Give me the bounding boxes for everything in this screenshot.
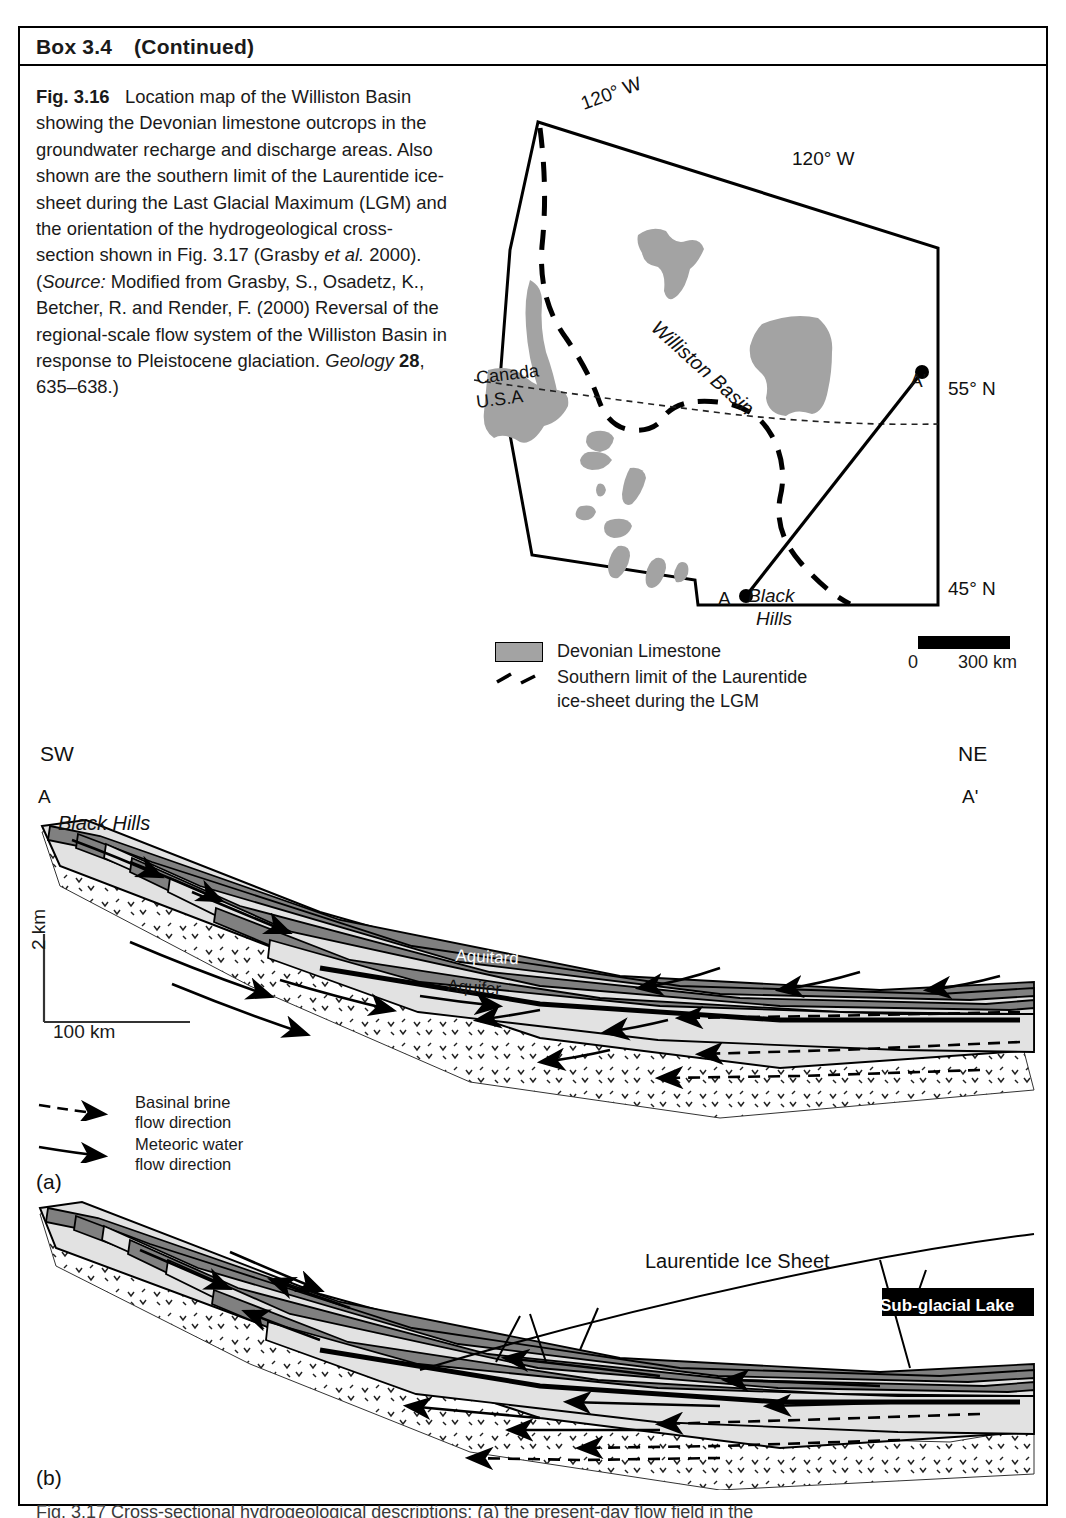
location-map: 120° W 120° W 55° N 45° N Williston Basi… bbox=[470, 80, 1050, 700]
scalebar-max-label: 300 km bbox=[958, 652, 1017, 673]
map-label-longitude-topright: 120° W bbox=[792, 148, 855, 170]
flow-legend-meteoric-line2: flow direction bbox=[135, 1155, 231, 1173]
label-direction-ne: NE bbox=[958, 742, 987, 766]
map-label-latitude-55n: 55° N bbox=[948, 378, 996, 400]
legend-item-limestone: Devonian Limestone bbox=[495, 640, 915, 666]
label-horizontal-scale: 100 km bbox=[53, 1021, 115, 1043]
label-laurentide-ice-sheet: Laurentide Ice Sheet bbox=[645, 1250, 830, 1273]
box-header: Box 3.4(Continued) bbox=[18, 26, 1048, 66]
flow-legend-item-brine: Basinal brine flow direction bbox=[35, 1095, 335, 1137]
panel-label-b: (b) bbox=[36, 1466, 62, 1490]
dashed-line-icon bbox=[495, 670, 547, 686]
box-label: Box 3.4 bbox=[36, 35, 112, 58]
legend-item-ice-limit: Southern limit of the Laurentide ice-she… bbox=[495, 666, 915, 716]
legend-label-ice-limit-line1: Southern limit of the Laurentide bbox=[557, 666, 807, 689]
cross-section-b-graphic bbox=[20, 1190, 1040, 1490]
box-continued-label: (Continued) bbox=[134, 35, 254, 58]
figure-number: Fig. 3.16 bbox=[36, 86, 110, 107]
map-legend: Devonian Limestone Southern limit of the… bbox=[495, 640, 915, 716]
map-outline bbox=[500, 122, 938, 605]
flow-direction-legend: Basinal brine flow direction Meteoric wa… bbox=[35, 1095, 335, 1179]
legend-label-limestone: Devonian Limestone bbox=[557, 640, 721, 663]
scalebar-rule bbox=[918, 636, 1010, 649]
flow-legend-meteoric-text: Meteoric water flow direction bbox=[135, 1135, 243, 1174]
limestone-swatch bbox=[495, 642, 543, 662]
label-black-hills-xsec: Black Hills bbox=[58, 812, 150, 835]
flow-legend-brine-text: Basinal brine flow direction bbox=[135, 1093, 231, 1132]
bottom-caption: Fig. 3.17 Cross-sectional hydrogeologica… bbox=[36, 1500, 1026, 1518]
page-root: Box 3.4(Continued) Fig. 3.16 Location ma… bbox=[0, 0, 1066, 1518]
label-vertical-scale: 2 km bbox=[28, 909, 50, 950]
label-subglacial-lake: Sub-glacial Lake bbox=[880, 1296, 1014, 1316]
flow-legend-item-meteoric: Meteoric water flow direction bbox=[35, 1137, 335, 1179]
label-aquifer: Aquifer bbox=[447, 976, 502, 1000]
solid-arrow-icon bbox=[35, 1141, 127, 1163]
dashed-arrow-icon bbox=[35, 1099, 127, 1121]
label-direction-sw: SW bbox=[40, 742, 74, 766]
map-label-black-hills-line2: Hills bbox=[756, 608, 792, 630]
label-section-point-a: A bbox=[38, 786, 51, 808]
flow-legend-brine-line2: flow direction bbox=[135, 1113, 231, 1131]
legend-label-ice-limit-line2: ice-sheet during the LGM bbox=[557, 690, 759, 713]
label-aquitard: Aquitard bbox=[455, 946, 519, 969]
map-label-latitude-45n: 45° N bbox=[948, 578, 996, 600]
scalebar-min-label: 0 bbox=[908, 652, 918, 673]
label-section-point-aprime: A' bbox=[962, 786, 978, 808]
map-label-point-aprime: A' bbox=[910, 370, 926, 392]
map-label-point-a: A bbox=[718, 588, 731, 610]
map-label-black-hills-line1: Black bbox=[748, 585, 794, 607]
box-header-title: Box 3.4(Continued) bbox=[36, 35, 254, 59]
flow-legend-brine-line1: Basinal brine bbox=[135, 1093, 230, 1111]
flow-legend-meteoric-line1: Meteoric water bbox=[135, 1135, 243, 1153]
figure-caption: Fig. 3.16 Location map of the Williston … bbox=[36, 84, 448, 401]
